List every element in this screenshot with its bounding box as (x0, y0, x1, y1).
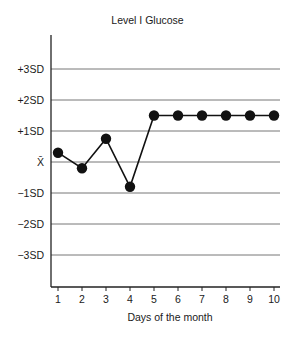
data-point (149, 110, 159, 120)
data-point (269, 110, 279, 120)
x-tick-label: 7 (199, 293, 205, 305)
levey-jennings-chart: +3SD+2SD+1SDX̄−1SD−2SD−3SD12345678910 (0, 0, 295, 343)
data-point (77, 163, 87, 173)
data-point (173, 110, 183, 120)
y-tick-label: X̄ (37, 156, 44, 168)
x-tick-label: 1 (55, 293, 61, 305)
x-axis-label: Days of the month (0, 311, 295, 323)
data-point (101, 134, 111, 144)
x-tick-label: 8 (223, 293, 229, 305)
data-point (53, 148, 63, 158)
x-tick-label: 4 (127, 293, 133, 305)
data-point (221, 110, 231, 120)
data-point (245, 110, 255, 120)
x-tick-label: 5 (151, 293, 157, 305)
y-tick-label: −2SD (17, 218, 44, 230)
y-tick-label: +3SD (17, 63, 44, 75)
y-tick-label: +2SD (17, 94, 44, 106)
x-tick-label: 10 (268, 293, 280, 305)
y-tick-label: +1SD (17, 125, 44, 137)
x-tick-label: 9 (247, 293, 253, 305)
data-point (125, 182, 135, 192)
x-tick-label: 3 (103, 293, 109, 305)
y-tick-label: −1SD (17, 187, 44, 199)
data-point (197, 110, 207, 120)
data-line (58, 116, 274, 187)
x-tick-label: 6 (175, 293, 181, 305)
x-tick-label: 2 (79, 293, 85, 305)
y-tick-label: −3SD (17, 249, 44, 261)
